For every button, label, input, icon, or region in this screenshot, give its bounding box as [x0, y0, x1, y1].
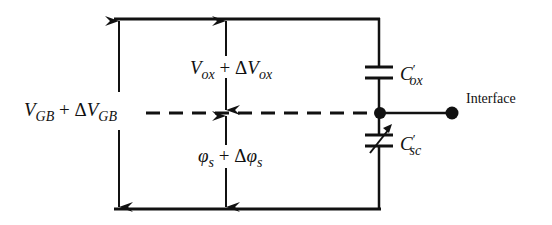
vgb-label: VGB + ΔVGB: [24, 100, 117, 124]
csc-label: C′sc: [400, 132, 421, 158]
interface-label: Interface: [466, 92, 516, 106]
vox-label: Vox + ΔVox: [190, 58, 272, 82]
cox-label: C′ox: [400, 62, 423, 88]
interface-terminal-icon: [446, 107, 459, 120]
capacitor-cox-icon: [365, 67, 393, 78]
phis-label: φs + Δφs: [198, 146, 262, 170]
junction-node-icon: [374, 107, 386, 119]
mos-capacitor-diagram: VGB + ΔVGB Vox + ΔVox φs + Δφs C′ox C′sc…: [0, 0, 552, 225]
